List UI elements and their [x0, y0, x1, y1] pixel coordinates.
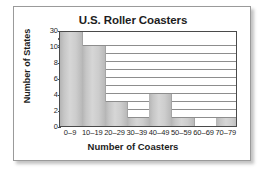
bar — [105, 102, 128, 126]
plot-area — [59, 31, 237, 127]
x-tick-label: 30–39 — [126, 128, 148, 137]
x-tick-label: 40–49 — [148, 128, 170, 137]
bar — [82, 46, 105, 126]
bar — [127, 118, 150, 126]
bar — [171, 118, 194, 126]
x-tick-label: 20–29 — [104, 128, 126, 137]
bar — [216, 118, 237, 126]
y-axis-ticks: 024681030 — [32, 25, 58, 135]
y-tick-label: 8 — [36, 59, 58, 67]
x-tick-label: 50–59 — [170, 128, 192, 137]
x-tick-label: 10–19 — [81, 128, 103, 137]
bars-layer — [60, 32, 236, 126]
x-tick-label: 60–69 — [193, 128, 215, 137]
y-tick-label: 6 — [36, 75, 58, 83]
y-tick-label: 0 — [36, 123, 58, 131]
bar — [60, 31, 83, 126]
y-tick-label: 30 — [36, 27, 58, 35]
y-axis-title: Number of States — [22, 20, 32, 112]
x-tick-label: 70–79 — [215, 128, 237, 137]
y-tick-label: 2 — [36, 107, 58, 115]
y-tick-label: 4 — [36, 91, 58, 99]
x-axis-tick-labels: 0–910–1920–2930–3940–4950–5960–6970–79 — [59, 128, 237, 140]
x-axis-title: Number of Coasters — [14, 141, 252, 152]
figure-frame: U.S. Roller Coasters Number of States 02… — [13, 6, 251, 161]
x-tick-label: 0–9 — [59, 128, 81, 137]
y-tick-label: 10 — [36, 43, 58, 51]
bar — [149, 94, 172, 126]
